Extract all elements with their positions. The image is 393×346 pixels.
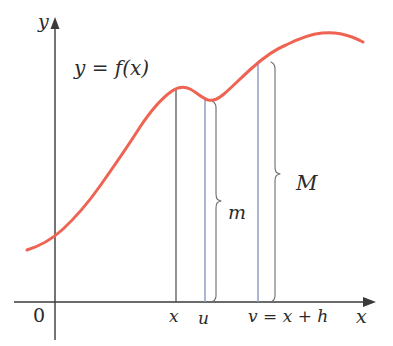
function-diagram: y x 0 y = f(x) x u v = x + h m M (0, 0, 393, 346)
tick-label-x: x (169, 308, 179, 325)
tick-label-u: u (198, 310, 209, 327)
x-axis-label: x (356, 307, 367, 326)
tick-label-v: v = x + h (248, 308, 328, 325)
curve-equation-label: y = f(x) (74, 58, 149, 78)
y-axis (51, 17, 60, 340)
brace-M (271, 62, 280, 302)
origin-label: 0 (33, 306, 45, 325)
y-axis-arrowhead (51, 17, 60, 29)
brace-m (212, 101, 221, 302)
brace-label-M: M (296, 173, 318, 194)
y-axis-label: y (38, 12, 49, 31)
brace-label-m: m (228, 203, 246, 222)
diagram-canvas (0, 0, 393, 346)
